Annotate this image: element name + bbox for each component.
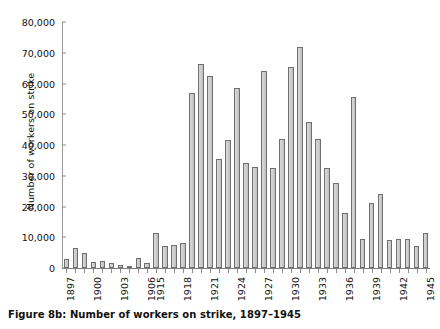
x-tick-mark bbox=[75, 269, 76, 273]
x-tick-mark bbox=[300, 269, 301, 273]
x-tick-label-1924: 1924 bbox=[236, 277, 247, 301]
bar-1899 bbox=[82, 253, 88, 268]
bar-1932 bbox=[306, 122, 312, 268]
bar-1905 bbox=[136, 258, 142, 268]
bar-1941 bbox=[387, 240, 393, 268]
x-tick-label-1930: 1930 bbox=[289, 277, 300, 301]
y-tick-label: 50,000 bbox=[22, 109, 62, 120]
bar-1934 bbox=[324, 168, 330, 268]
bar-1922 bbox=[216, 159, 222, 268]
bar-1916 bbox=[162, 246, 168, 268]
bar-1927 bbox=[261, 71, 267, 268]
bar-1940 bbox=[378, 194, 384, 268]
x-tick-mark bbox=[363, 269, 364, 273]
bar-1933 bbox=[315, 139, 321, 268]
bar-1906 bbox=[144, 263, 150, 268]
bar-1936 bbox=[342, 213, 348, 268]
x-tick-mark bbox=[201, 269, 202, 273]
x-tick-mark bbox=[129, 269, 130, 273]
bar-1926 bbox=[252, 167, 258, 268]
x-tick-mark bbox=[111, 269, 112, 273]
x-tick-mark bbox=[309, 269, 310, 273]
bar-1928 bbox=[270, 168, 276, 268]
x-tick-mark bbox=[255, 269, 256, 273]
bar-1930 bbox=[288, 67, 294, 268]
bar-1925 bbox=[243, 163, 249, 268]
bar-1944 bbox=[414, 246, 420, 268]
bar-1918 bbox=[180, 243, 186, 268]
bar-1904 bbox=[127, 266, 133, 268]
y-tick-label: 40,000 bbox=[22, 140, 62, 151]
bar-1897 bbox=[64, 259, 70, 268]
bar-series bbox=[62, 22, 430, 268]
x-tick-mark bbox=[165, 269, 166, 273]
plot-area: 010,00020,00030,00040,00050,00060,00070,… bbox=[62, 22, 430, 268]
bar-1937 bbox=[351, 97, 357, 268]
bar-1915 bbox=[153, 233, 159, 268]
x-tick-mark bbox=[147, 269, 148, 273]
x-tick-mark bbox=[120, 269, 121, 273]
bar-1923 bbox=[225, 140, 231, 268]
x-tick-mark bbox=[282, 269, 283, 273]
x-tick-label-1936: 1936 bbox=[343, 277, 354, 301]
x-tick-label-1903: 1903 bbox=[119, 277, 130, 301]
x-tick-mark bbox=[174, 269, 175, 273]
bar-1943 bbox=[405, 239, 411, 268]
figure-caption: Figure 8b: Number of workers on strike, … bbox=[8, 309, 301, 320]
x-tick-mark bbox=[345, 269, 346, 273]
x-tick-mark bbox=[138, 269, 139, 273]
figure-container: Number of workers on strike 010,00020,00… bbox=[0, 0, 440, 329]
x-tick-mark bbox=[327, 269, 328, 273]
x-tick-mark bbox=[264, 269, 265, 273]
x-tick-mark bbox=[102, 269, 103, 273]
bar-1901 bbox=[100, 261, 106, 268]
bar-1919 bbox=[189, 93, 195, 268]
y-tick-label: 0 bbox=[49, 263, 62, 274]
bar-1935 bbox=[333, 183, 339, 268]
x-tick-mark bbox=[228, 269, 229, 273]
bar-1917 bbox=[171, 245, 177, 268]
x-tick-mark bbox=[210, 269, 211, 273]
x-tick-label-1918: 1918 bbox=[182, 277, 193, 301]
x-tick-label-1921: 1921 bbox=[209, 277, 220, 301]
x-tick-mark bbox=[318, 269, 319, 273]
x-tick-mark bbox=[219, 269, 220, 273]
bar-1942 bbox=[396, 239, 402, 268]
bar-1924 bbox=[234, 88, 240, 268]
bar-1902 bbox=[109, 263, 115, 268]
y-tick-label: 60,000 bbox=[22, 78, 62, 89]
x-tick-mark bbox=[372, 269, 373, 273]
x-tick-mark bbox=[66, 269, 67, 273]
x-tick-label-1915: 1915 bbox=[155, 277, 166, 301]
x-tick-label-1927: 1927 bbox=[262, 277, 273, 301]
x-tick-label-1942: 1942 bbox=[397, 277, 408, 301]
x-tick-mark bbox=[237, 269, 238, 273]
bar-1898 bbox=[73, 248, 79, 268]
x-tick-label-1897: 1897 bbox=[65, 277, 76, 301]
x-tick-mark bbox=[390, 269, 391, 273]
x-tick-mark bbox=[84, 269, 85, 273]
x-tick-mark bbox=[291, 269, 292, 273]
x-tick-mark bbox=[183, 269, 184, 273]
x-tick-mark bbox=[381, 269, 382, 273]
y-tick-label: 70,000 bbox=[22, 47, 62, 58]
bar-1945 bbox=[423, 233, 429, 268]
y-tick-label: 80,000 bbox=[22, 17, 62, 28]
x-tick-mark bbox=[408, 269, 409, 273]
x-tick-label-1939: 1939 bbox=[370, 277, 381, 301]
bar-1938 bbox=[360, 239, 366, 268]
x-tick-mark bbox=[417, 269, 418, 273]
x-tick-mark bbox=[354, 269, 355, 273]
x-tick-mark bbox=[246, 269, 247, 273]
x-tick-mark bbox=[192, 269, 193, 273]
bar-1920 bbox=[198, 64, 204, 268]
x-tick-label-1933: 1933 bbox=[316, 277, 327, 301]
x-axis-ticks: 1897190019031906191519181921192419271930… bbox=[62, 269, 430, 329]
x-tick-label-1900: 1900 bbox=[92, 277, 103, 301]
x-tick-label-1945: 1945 bbox=[424, 277, 435, 301]
y-tick-label: 10,000 bbox=[22, 232, 62, 243]
x-tick-mark bbox=[336, 269, 337, 273]
bar-1900 bbox=[91, 262, 97, 268]
bar-1931 bbox=[297, 47, 303, 268]
y-tick-label: 20,000 bbox=[22, 201, 62, 212]
